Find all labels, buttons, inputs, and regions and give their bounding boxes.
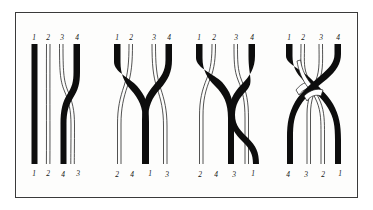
panel-4-bottom-label-4: 1 xyxy=(338,169,342,178)
panel-3-top-label-4: 4 xyxy=(250,33,254,42)
panel-4-top-label-3: 3 xyxy=(318,33,323,42)
panel-3-bottom-label-1: 2 xyxy=(198,170,202,179)
panel-2-top-label-4: 4 xyxy=(167,33,171,42)
panel-4-top-label-2: 2 xyxy=(301,33,305,42)
panel-2-bottom-label-3: 1 xyxy=(148,169,152,178)
panel-4-top-label-1: 1 xyxy=(287,33,291,42)
panel-2-strand-3 xyxy=(152,44,164,164)
figure-root: 1 2 3 4 1 2 4 3 1 2 3 4 xyxy=(0,0,373,210)
panel-3-strand-1 xyxy=(196,44,234,164)
panel-3-bottom-label-3: 3 xyxy=(231,170,236,179)
panel-3-strand-2-edge xyxy=(203,44,216,164)
panel-3-bottom-label-2: 4 xyxy=(214,170,218,179)
braid-diagram-4: 1 2 3 4 4 3 2 1 xyxy=(286,33,342,179)
panel-2-top-label-3: 3 xyxy=(151,33,156,42)
panel-1-top-label-3: 3 xyxy=(59,33,64,42)
panel-1-bottom-label-3: 4 xyxy=(61,170,65,179)
panel-1-bottom-label-1: 1 xyxy=(32,169,36,178)
panel-2-strand-2-edge xyxy=(121,44,133,164)
panel-1-top-label-2: 2 xyxy=(46,33,50,42)
panel-4-bottom-label-1: 4 xyxy=(286,170,290,179)
panel-4-strand-3 xyxy=(307,44,319,164)
panel-1-bottom-label-2: 2 xyxy=(46,169,50,178)
panel-1-strand-1 xyxy=(32,44,38,164)
panel-2-bottom-label-2: 4 xyxy=(130,170,134,179)
panel-1-bottom-label-4: 3 xyxy=(75,169,80,178)
panel-2-top-label-1: 1 xyxy=(115,33,119,42)
panel-4-top-label-4: 4 xyxy=(336,33,340,42)
panel-1-top-label-1: 1 xyxy=(32,33,36,42)
panel-3-top-label-2: 2 xyxy=(212,33,216,42)
panel-4-bottom-label-3: 2 xyxy=(321,170,325,179)
panel-4-bottom-label-2: 3 xyxy=(303,170,308,179)
panel-2-bottom-label-4: 3 xyxy=(164,170,169,179)
panel-3-bottom-label-4: 1 xyxy=(251,169,255,178)
panel-3-top-label-1: 1 xyxy=(197,33,201,42)
panel-1-top-label-4: 4 xyxy=(75,33,79,42)
braid-diagram-3: 1 2 3 4 2 4 3 1 xyxy=(196,33,259,179)
panel-2-top-label-2: 2 xyxy=(129,33,133,42)
panel-2-bottom-label-1: 2 xyxy=(115,170,119,179)
braid-canvas: 1 2 3 4 1 2 4 3 1 2 3 4 xyxy=(0,0,373,210)
braid-diagram-1: 1 2 3 4 1 2 4 3 xyxy=(32,33,81,179)
panel-3-top-label-3: 3 xyxy=(233,33,238,42)
braid-diagram-2: 1 2 3 4 2 4 1 3 xyxy=(114,33,172,179)
